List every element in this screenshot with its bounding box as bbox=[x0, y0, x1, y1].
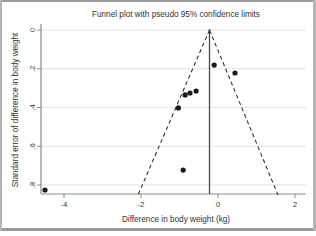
x-tick-label--4: -4 bbox=[61, 200, 68, 209]
data-point bbox=[232, 70, 237, 75]
y-axis-tick-labels: 0 .2 .4 .6 .8 bbox=[28, 28, 37, 188]
y-tick-label-0: 0 bbox=[28, 28, 37, 32]
plot-background bbox=[41, 24, 306, 194]
funnel-plot-figure: 0 .2 .4 .6 .8 -4 -2 0 2 bbox=[0, 0, 316, 236]
data-point bbox=[176, 105, 181, 110]
plot-canvas: 0 .2 .4 .6 .8 -4 -2 0 2 bbox=[0, 0, 316, 236]
plot-title: Funnel plot with pseudo 95% confidence l… bbox=[92, 10, 260, 19]
y-axis-title: Standard error of difference in body wei… bbox=[11, 32, 20, 187]
y-tick-label-0.2: .2 bbox=[28, 66, 37, 72]
y-tick-label-0.4: .4 bbox=[28, 104, 37, 110]
x-axis-ticks bbox=[64, 194, 295, 198]
x-tick-label-0: 0 bbox=[216, 200, 220, 209]
data-point bbox=[183, 92, 188, 97]
x-tick-label--2: -2 bbox=[138, 200, 145, 209]
x-axis-tick-labels: -4 -2 0 2 bbox=[61, 200, 297, 209]
data-point bbox=[212, 63, 217, 68]
data-point bbox=[187, 90, 192, 95]
y-tick-label-0.6: .6 bbox=[28, 143, 37, 149]
data-point bbox=[194, 88, 199, 93]
data-point bbox=[181, 168, 186, 173]
data-point bbox=[42, 187, 47, 192]
x-axis-title: Difference in body weight (kg) bbox=[122, 215, 230, 224]
y-tick-label-0.8: .8 bbox=[28, 182, 37, 188]
x-tick-label-2: 2 bbox=[293, 200, 297, 209]
